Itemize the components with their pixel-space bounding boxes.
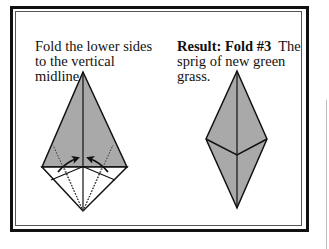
- fold-diagrams: [0, 0, 329, 249]
- left-fold-figure: [42, 72, 127, 211]
- result-figure: [206, 71, 267, 208]
